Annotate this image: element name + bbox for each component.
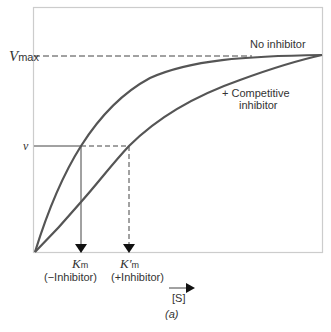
panel-label: (a) [165,308,179,320]
km-arrowhead-icon [75,244,87,253]
competitive-inhibitor-label-line2: inhibitor [239,99,278,111]
km-prime-note: (+Inhibitor) [111,271,164,283]
no-inhibitor-label: No inhibitor [250,38,306,50]
michaelis-menten-figure: Vmax v No inhibitor + Competitive inhibi… [0,0,331,332]
s-axis-arrowhead-icon [186,283,195,293]
no-inhibitor-curve [35,55,322,252]
vmax-label: Vmax [9,48,39,64]
km-prime-arrowhead-icon [123,244,135,253]
km-label: Km [71,256,88,271]
competitive-inhibitor-curve [35,55,322,252]
km-note: (−Inhibitor) [44,271,97,283]
competitive-inhibitor-label-line1: + Competitive [222,87,290,99]
s-axis-label: [S] [172,292,185,304]
km-prime-label: K′m [119,256,139,271]
v-label: v [23,139,29,153]
